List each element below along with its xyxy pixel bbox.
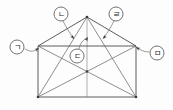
label-nieun-circle [54,7,68,21]
apex-to-base-right-line [87,17,136,97]
label-digeut-leader-line [79,38,87,49]
label-giyeok[interactable]: ㄱ [10,40,24,54]
figure-container: ㄱㄴㄷㄹㅁ [0,0,173,110]
label-nieun[interactable]: ㄴ [54,7,68,21]
label-giyeok-arrow-icon [35,47,40,52]
geometry-diagram: ㄱㄴㄷㄹㅁ [0,0,173,110]
label-rieul-arrow-icon [102,35,107,40]
vertex-base-right-dot [135,96,138,99]
label-mieum-circle [150,46,164,60]
label-digeut-circle [70,49,84,63]
label-giyeok-circle [10,40,24,54]
inner-lines-group [38,17,136,97]
vertex-apex-dot [86,16,89,19]
label-nieun-leader-line [63,21,74,38]
vertex-base-left-dot [37,96,40,99]
vertex-center-dot [86,70,88,72]
label-rieul[interactable]: ㄹ [109,7,123,21]
label-rieul-circle [109,7,123,21]
label-mieum[interactable]: ㅁ [150,46,164,60]
label-digeut[interactable]: ㄷ [70,49,84,63]
